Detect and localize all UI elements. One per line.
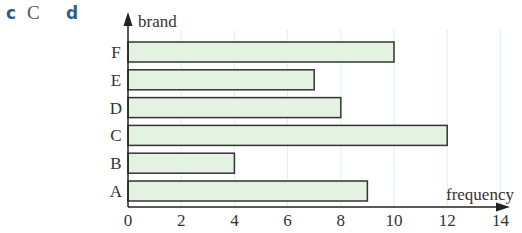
category-label: B (110, 154, 121, 173)
bar-F (128, 42, 394, 62)
x-tick-label: 12 (439, 211, 456, 230)
bar-D (128, 98, 341, 118)
bar-B (128, 153, 234, 173)
x-tick-label: 14 (492, 211, 510, 230)
bar-A (128, 181, 367, 201)
category-label: A (110, 182, 123, 201)
category-label: C (110, 126, 121, 145)
bar-C (128, 125, 447, 145)
category-labels: ABCDEF (110, 43, 123, 201)
y-axis-arrow-icon (124, 12, 133, 26)
y-axis-title: brand (138, 12, 177, 31)
x-tick-label: 2 (177, 211, 186, 230)
category-label: E (111, 71, 121, 90)
x-axis-title: frequency (446, 185, 514, 204)
bar-chart: ABCDEF 02468101214 brand frequency (0, 0, 522, 233)
tick-labels: 02468101214 (124, 211, 510, 230)
x-tick-label: 4 (230, 211, 239, 230)
category-label: F (111, 43, 120, 62)
category-label: D (110, 99, 122, 118)
x-tick-label: 8 (337, 211, 346, 230)
x-tick-label: 0 (124, 211, 133, 230)
x-tick-label: 10 (386, 211, 403, 230)
x-tick-label: 6 (283, 211, 292, 230)
bar-E (128, 70, 314, 90)
